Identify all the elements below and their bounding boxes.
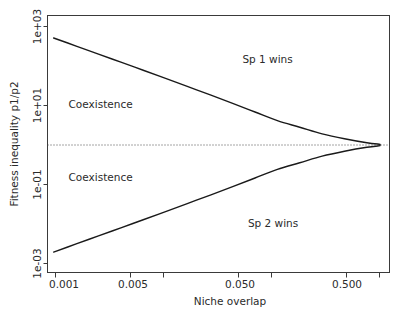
x-tick-label-0.050: 0.050 — [225, 278, 255, 290]
annotation-coexistence-lower: Coexistence — [69, 171, 133, 183]
y-tick-label-1e+01: 1e+01 — [31, 88, 43, 123]
chart-background — [0, 0, 402, 315]
chart-figure: 1e+03 1e+01 1e-01 1e-03 Fitness inequali… — [0, 0, 402, 315]
y-tick-label-1e-01: 1e-01 — [31, 169, 43, 199]
fitness-inequality-niche-overlap-chart: 1e+03 1e+01 1e-01 1e-03 Fitness inequali… — [0, 0, 402, 315]
annotation-sp2-wins: Sp 2 wins — [248, 217, 298, 229]
annotation-sp1-wins: Sp 1 wins — [242, 53, 292, 65]
x-tick-label-0.500: 0.500 — [332, 278, 362, 290]
x-tick-label-0.001: 0.001 — [49, 278, 79, 290]
annotation-coexistence-upper: Coexistence — [69, 98, 133, 110]
y-tick-label-1e+03: 1e+03 — [31, 9, 43, 44]
y-axis-title: Fitness inequality p1/p2 — [8, 81, 20, 206]
x-axis-title: Niche overlap — [194, 295, 267, 307]
x-tick-label-0.005: 0.005 — [118, 278, 148, 290]
y-tick-label-1e-03: 1e-03 — [31, 248, 43, 278]
